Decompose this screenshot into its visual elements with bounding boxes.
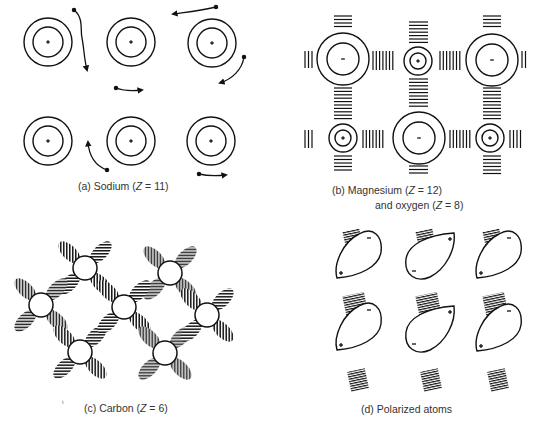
carbon-atom: [158, 261, 182, 285]
dipole-bond: [347, 368, 369, 391]
caption-c: (c) Carbon (Z = 6): [84, 402, 168, 414]
sodium-atom: [107, 117, 155, 165]
dipole-bond: [420, 368, 442, 391]
caption-d: (d) Polarized atoms: [361, 403, 452, 415]
bonding-figure: t (a) Sodium (Z = 11) (b) Magnesium (Z =…: [0, 0, 535, 425]
caption-b-line2: and oxygen (Z = 8): [375, 199, 463, 211]
electron-path-icon: [88, 142, 107, 170]
sodium-atom: [107, 18, 155, 66]
magnesium-ion: [404, 47, 432, 75]
electron-path-icon: [220, 57, 244, 83]
oxygen-ion: [466, 34, 518, 86]
electron-path-icon: [199, 174, 226, 176]
carbon-atom: [195, 303, 219, 327]
caption-a: (a) Sodium (Z = 11): [78, 180, 169, 192]
polarized-atom: [336, 231, 381, 278]
polarized-atom: [476, 304, 521, 351]
panel-c-carbon: t: [11, 238, 238, 405]
free-electron-paths: [72, 5, 245, 175]
carbon-atom: [153, 341, 177, 365]
caption-b-line1: (b) Magnesium (Z = 12): [332, 184, 442, 196]
magnesium-ion: [329, 124, 357, 152]
electron-path-icon: [173, 7, 216, 14]
sodium-atom: [24, 18, 72, 66]
panel-d-polarized-atoms: [336, 228, 521, 391]
sodium-atom: [188, 19, 236, 67]
electron-path-icon: [74, 10, 87, 70]
panel-b-magnesium-oxygen: [305, 16, 526, 174]
electron-path-icon: [116, 88, 142, 91]
polarized-atom: [476, 231, 521, 278]
carbon-atom: [68, 340, 92, 364]
sodium-atom: [24, 117, 72, 165]
figure-artwork: t: [0, 0, 535, 425]
oxygen-ion: [393, 112, 445, 164]
polarized-atom: [406, 306, 454, 352]
panel-a-sodium: [24, 5, 246, 175]
dipole-bond: [487, 368, 509, 391]
polarized-atom: [336, 303, 381, 350]
polarized-atom: [406, 233, 454, 279]
carbon-atom: [73, 256, 97, 280]
oxygen-ion: [317, 33, 369, 85]
sodium-atom: [187, 117, 235, 165]
stray-mark: t: [62, 399, 64, 405]
carbon-atom: [29, 293, 53, 317]
magnesium-ion: [476, 124, 504, 152]
carbon-atom: [112, 295, 136, 319]
